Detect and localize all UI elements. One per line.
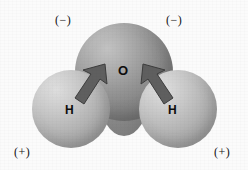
water-molecule-figure: O H H (−) (−) (+) (+) [0, 0, 248, 170]
charge-label-negative-top-left: (−) [55, 14, 71, 26]
charge-label-positive-bottom-right: (+) [214, 146, 230, 158]
hydrogen-atom-left-label: H [65, 104, 74, 116]
charge-label-negative-top-right: (−) [166, 14, 182, 26]
charge-label-positive-bottom-left: (+) [14, 146, 30, 158]
hydrogen-atom-right-label: H [168, 104, 177, 116]
hydrogen-atom-right-sphere [139, 70, 217, 148]
oxygen-atom-label: O [118, 64, 128, 77]
